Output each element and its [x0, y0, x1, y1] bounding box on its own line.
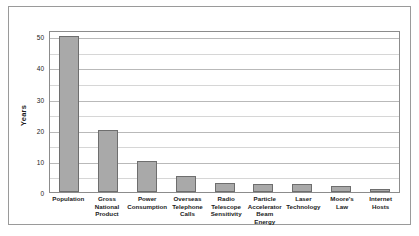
x-tick-label: LaserTechnology	[284, 195, 323, 227]
x-tick-label-line: Power	[127, 195, 167, 203]
y-tick-label: 0	[40, 190, 44, 197]
y-axis-label: Years	[17, 85, 31, 145]
bar	[370, 189, 390, 192]
y-axis-ticks: 01020304050	[31, 31, 46, 193]
x-tick-label: OverseasTelephoneCalls	[168, 195, 207, 227]
y-tick-label: 10	[37, 158, 44, 165]
x-tick-label: GrossNationalProduct	[88, 195, 127, 227]
x-tick-label-line: Gross	[89, 195, 126, 203]
y-tick-label: 20	[37, 127, 44, 134]
x-tick-label-line: Radio	[208, 195, 245, 203]
y-tick-label: 30	[37, 96, 44, 103]
bar-slot	[360, 32, 399, 192]
bar	[137, 161, 157, 192]
x-tick-label: PowerConsumption	[126, 195, 168, 227]
x-tick-label: Population	[49, 195, 88, 227]
bar-slot	[283, 32, 322, 192]
x-tick-label-line: Particle	[246, 195, 283, 203]
x-tick-label: InternetHosts	[361, 195, 400, 227]
x-tick-label-line: Internet	[362, 195, 399, 203]
x-tick-label-line: Consumption	[127, 203, 167, 211]
bar	[176, 176, 196, 192]
bar-slot	[321, 32, 360, 192]
x-tick-label-line: Telescope	[208, 203, 245, 211]
x-tick-label-line: Product	[89, 210, 126, 218]
bar-slot	[89, 32, 128, 192]
x-tick-label-line: Moore's	[324, 195, 361, 203]
x-tick-label-line: Population	[50, 195, 87, 203]
x-tick-label: Moore'sLaw	[323, 195, 362, 227]
y-tick-label: 50	[37, 34, 44, 41]
x-tick-label-line: Accelerator	[246, 203, 283, 211]
bar	[98, 130, 118, 192]
x-tick-label-line: Calls	[169, 210, 206, 218]
chart-figure: Years 01020304050 PopulationGrossNationa…	[8, 6, 411, 225]
x-tick-label-line: Law	[324, 203, 361, 211]
plot-area	[49, 31, 400, 193]
x-tick-label-line: Sensitivity	[208, 210, 245, 218]
x-tick-label-line: Beam Energy	[246, 210, 283, 225]
x-tick-label: ParticleAcceleratorBeam Energy	[245, 195, 284, 227]
x-axis-labels: PopulationGrossNationalProductPowerConsu…	[49, 195, 400, 227]
x-tick-label-line: Hosts	[362, 203, 399, 211]
x-tick-label-line: Telephone	[169, 203, 206, 211]
x-tick-label-line: Technology	[285, 203, 322, 211]
y-tick-label: 40	[37, 65, 44, 72]
bar-slot	[205, 32, 244, 192]
bar	[253, 184, 273, 192]
bar	[292, 184, 312, 192]
bar	[59, 36, 79, 192]
bar	[215, 183, 235, 192]
bar-slot	[166, 32, 205, 192]
x-tick-label-line: National	[89, 203, 126, 211]
bar-series	[50, 32, 399, 192]
x-tick-label-line: Laser	[285, 195, 322, 203]
bar-slot	[128, 32, 167, 192]
bar-slot	[50, 32, 89, 192]
bar-slot	[244, 32, 283, 192]
bar	[331, 186, 351, 192]
x-tick-label-line: Overseas	[169, 195, 206, 203]
x-tick-label: RadioTelescopeSensitivity	[207, 195, 246, 227]
